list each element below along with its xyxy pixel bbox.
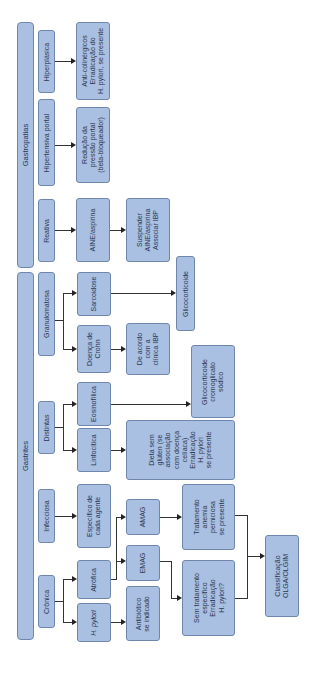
connector [171, 561, 172, 599]
connector [55, 427, 63, 428]
arrow-icon [260, 553, 265, 559]
reativa-node: Reativa [38, 199, 55, 262]
hipertensiva-treatment: Redução da pressão portal (beta-bloquead… [76, 107, 110, 183]
aine-node: AINE/aspirina [76, 198, 110, 262]
arrow-icon [72, 401, 77, 407]
arrow-icon [121, 619, 126, 625]
connector [63, 579, 64, 622]
linfocitica-node: Linfocítica [77, 428, 111, 472]
cronica-node: Crônica [38, 575, 55, 628]
connector [55, 61, 71, 62]
connector [63, 579, 72, 580]
gastrites-label: Gastrites [21, 441, 29, 471]
connector [63, 622, 72, 623]
gastropatias-root: Gastropatias [17, 22, 34, 268]
connector [111, 450, 121, 451]
crohn-node: Doença de Crohn [77, 325, 111, 373]
amag-node: AMAG [126, 499, 160, 535]
connector [160, 517, 177, 518]
connector [247, 515, 248, 599]
infecciosa-node: Infecciosa [38, 489, 55, 543]
eosinofilica-node: Eosinofílica [77, 382, 111, 426]
connector [63, 349, 72, 350]
connector [247, 556, 260, 557]
infecciosa-treatment: Específico de cada agente [77, 484, 111, 548]
antibiotico-node: Antibiótico se indicado [126, 586, 160, 641]
classificacao-node: Classificação OLGA/OLGIM [265, 535, 299, 617]
sarcoidose-node: Sarcoidose [77, 272, 111, 316]
arrow-icon [177, 595, 182, 601]
arrow-icon [72, 619, 77, 625]
hiperplasica-treatment: Anti-colinérgicos Erradicação do H. pylo… [76, 22, 110, 100]
connector [63, 293, 64, 350]
arrow-icon [72, 346, 77, 352]
arrow-icon [121, 346, 126, 352]
arrow-icon [177, 514, 182, 520]
hiperplasica-node: Hiperplásica [38, 30, 55, 93]
connector [63, 293, 72, 294]
gastrites-root: Gastrites [17, 272, 34, 640]
arrow-icon [121, 227, 126, 233]
connector [110, 230, 121, 231]
arrow-icon [71, 227, 76, 233]
eosinofilica-treatment: Glicocorticoide cromoglicato sódico [191, 345, 235, 418]
arrow-icon [121, 447, 126, 453]
emag-node: EMAG [126, 545, 160, 581]
arrow-icon [71, 142, 76, 148]
glicocorticoide-node: Glicocorticoide [176, 256, 195, 331]
arrow-icon [71, 58, 76, 64]
arrow-icon [72, 290, 77, 296]
crohn-treatment: De acordo com a clínica IBP [126, 323, 170, 375]
connector [160, 561, 171, 562]
hipertensiva-node: Hipertensiva portal [38, 99, 55, 186]
connector [55, 320, 63, 321]
connector [63, 450, 72, 451]
arrow-icon [72, 513, 77, 519]
arrow-icon [72, 576, 77, 582]
connector [111, 293, 171, 294]
connector [55, 230, 71, 231]
distintas-node: Distintas [38, 401, 55, 454]
connector [111, 622, 121, 623]
arrow-icon [186, 401, 191, 407]
connector [235, 515, 247, 516]
gastropatias-label: Gastropatias [21, 124, 29, 167]
arrow-icon [171, 290, 176, 296]
emag-treatment: Sem tratamento específico Erradicação H.… [182, 560, 235, 636]
connector [235, 598, 247, 599]
linfocitica-treatment: Dieta sem glúten (se associação com doen… [126, 420, 235, 480]
connector [111, 404, 186, 405]
connector [55, 516, 72, 517]
connector [55, 145, 71, 146]
arrow-icon [72, 447, 77, 453]
arrow-icon [121, 558, 126, 564]
atrofica-node: Atrófica [77, 560, 111, 599]
connector [116, 517, 117, 580]
connector [111, 349, 121, 350]
connector [63, 404, 72, 405]
connector [55, 601, 63, 602]
aine-treatment: Suspender AINE/aspirina Associar IBP [126, 198, 170, 262]
connector [63, 404, 64, 450]
hpylori-node: H. pylori [77, 603, 111, 642]
amag-treatment: Tratamento anemia perniciosa se presente [182, 484, 235, 550]
arrow-icon [121, 514, 126, 520]
granulomatosa-node: Granulomatosa [38, 272, 55, 356]
